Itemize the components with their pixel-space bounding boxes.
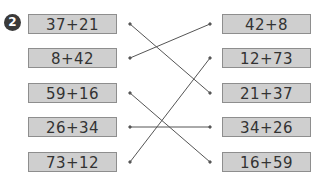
- right-expression-box[interactable]: 16+59: [222, 152, 311, 172]
- right-expression-box[interactable]: 42+8: [222, 14, 311, 34]
- right-expression-box[interactable]: 21+37: [222, 83, 311, 103]
- left-expression-box[interactable]: 59+16: [28, 83, 117, 103]
- right-expression-box[interactable]: 34+26: [222, 117, 311, 137]
- left-expression-box[interactable]: 26+34: [28, 117, 117, 137]
- left-expression-box[interactable]: 8+42: [28, 48, 117, 68]
- right-expression-box[interactable]: 12+73: [222, 48, 311, 68]
- left-expression-box[interactable]: 37+21: [28, 14, 117, 34]
- line-8+42-to-42+8: [130, 24, 210, 58]
- left-expression-box[interactable]: 73+12: [28, 152, 117, 172]
- line-73+12-to-12+73: [130, 58, 210, 162]
- line-37+21-to-21+37: [130, 24, 210, 93]
